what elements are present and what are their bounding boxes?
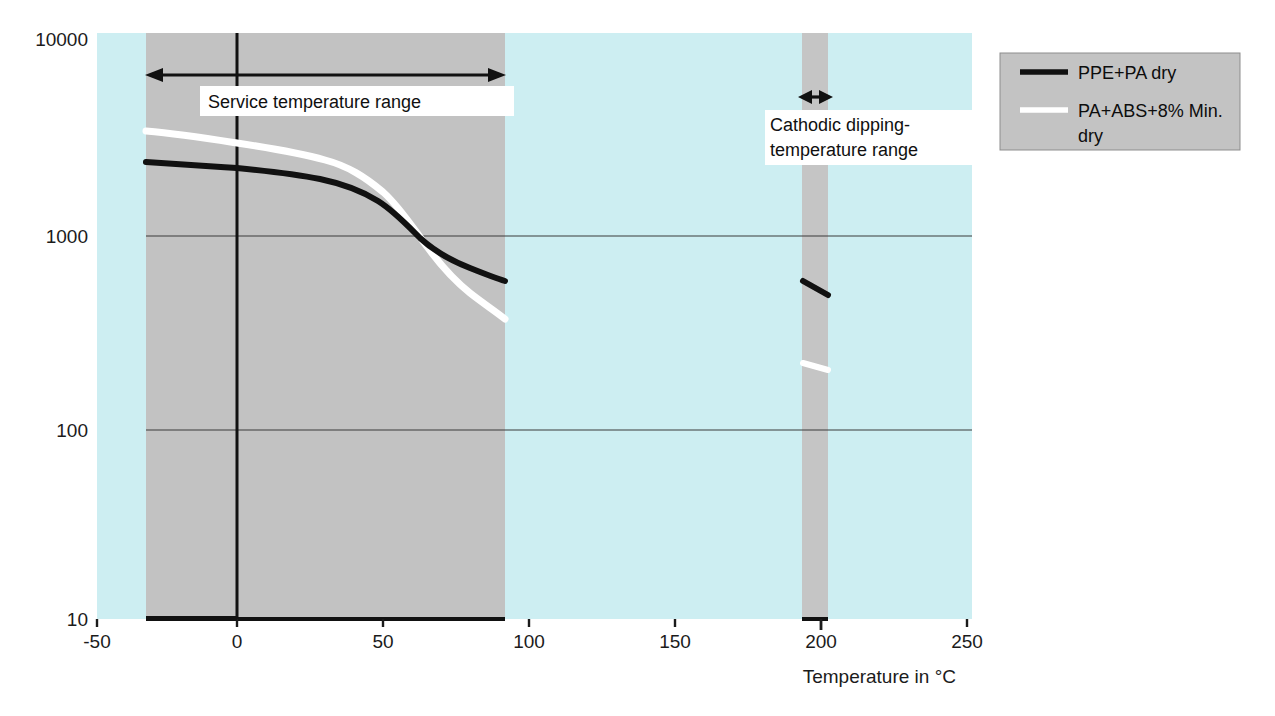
xtick-label-200: 200 xyxy=(805,631,837,652)
xtick-label-0: 0 xyxy=(232,631,243,652)
xtick-label-150: 150 xyxy=(659,631,691,652)
xtick-label--50: -50 xyxy=(83,631,110,652)
legend-label-pa-abs-min-dry-line1: PA+ABS+8% Min. xyxy=(1078,101,1223,121)
legend-label-ppe-pa-dry: PPE+PA dry xyxy=(1078,63,1176,83)
xtick-label-50: 50 xyxy=(372,631,393,652)
chart-root: 10000 1000 100 10 -50 0 50 100 150 200 2… xyxy=(0,0,1275,716)
log-line-chart: 10000 1000 100 10 -50 0 50 100 150 200 2… xyxy=(0,0,1275,716)
cathodic-range-label-line2: temperature range xyxy=(770,140,918,160)
xtick-label-250: 250 xyxy=(951,631,983,652)
legend: PPE+PA dry PA+ABS+8% Min. dry xyxy=(1000,53,1240,150)
ytick-label-10000: 10000 xyxy=(35,29,88,50)
legend-label-pa-abs-min-dry-line2: dry xyxy=(1078,126,1103,146)
service-temperature-band xyxy=(146,33,505,619)
ytick-label-100: 100 xyxy=(56,420,88,441)
ytick-label-1000: 1000 xyxy=(46,226,88,247)
x-axis-title: Temperature in °C xyxy=(803,666,956,687)
xtick-label-100: 100 xyxy=(513,631,545,652)
service-range-label: Service temperature range xyxy=(208,92,421,112)
cathodic-range-label-line1: Cathodic dipping- xyxy=(770,115,910,135)
ytick-label-10: 10 xyxy=(67,609,88,630)
